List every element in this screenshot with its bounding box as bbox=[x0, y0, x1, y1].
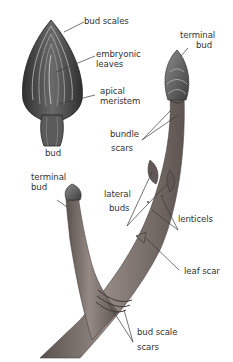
label-terminal-bud-top-line1: terminal bbox=[180, 30, 215, 40]
label-bud: bud bbox=[45, 148, 61, 158]
label-apical-meristem-line2: meristem bbox=[100, 96, 140, 106]
label-terminal-bud-left-line1: terminal bbox=[31, 172, 66, 182]
label-lateral-buds-line2: buds bbox=[109, 203, 129, 213]
terminal-bud-left bbox=[65, 184, 81, 200]
label-apical-meristem-line1: apical bbox=[100, 86, 125, 96]
label-bud-scale-scars-line1: bud scale bbox=[137, 327, 177, 337]
label-lateral-buds-line1: lateral bbox=[104, 189, 131, 199]
label-terminal-bud-left-line2: bud bbox=[31, 182, 47, 192]
label-terminal-bud-top-line2: bud bbox=[196, 40, 212, 50]
label-bundle-scars-line2: scars bbox=[111, 143, 133, 153]
label-leaf-scar: leaf scar bbox=[184, 266, 220, 276]
terminal-bud-top bbox=[165, 50, 189, 100]
label-bundle-scars-line1: bundle bbox=[110, 129, 139, 139]
label-bud-scale-scars-line2: scars bbox=[137, 342, 159, 352]
label-embryonic-leaves-line2: leaves bbox=[96, 59, 123, 69]
label-embryonic-leaves-line1: embryonic bbox=[96, 49, 141, 59]
bud-cross-section bbox=[22, 20, 82, 146]
label-lenticels: lenticels bbox=[178, 214, 213, 224]
label-bud-scales: bud scales bbox=[84, 16, 129, 26]
